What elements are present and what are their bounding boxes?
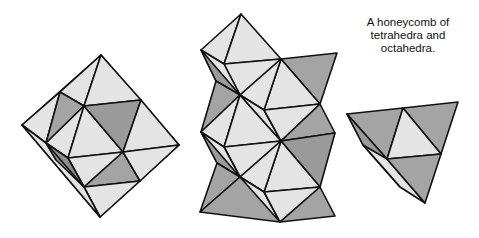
tetrahedron-figure bbox=[347, 102, 458, 203]
diagram-canvas: A honeycomb of tetrahedra and octahedra. bbox=[0, 0, 479, 238]
honeycomb-figure bbox=[200, 14, 337, 222]
octahedron-figure bbox=[22, 55, 179, 217]
oct-face bbox=[84, 181, 140, 217]
caption-line: octahedra. bbox=[352, 42, 464, 55]
caption: A honeycomb of tetrahedra and octahedra. bbox=[352, 16, 464, 55]
caption-line: A honeycomb of bbox=[352, 16, 464, 29]
caption-line: tetrahedra and bbox=[352, 29, 464, 42]
